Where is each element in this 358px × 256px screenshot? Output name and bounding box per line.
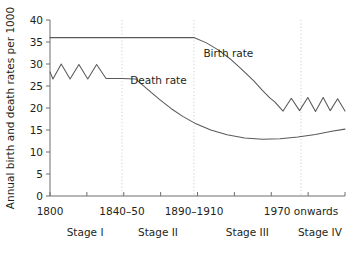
x-tick-label-2: 1840–50 — [99, 205, 144, 217]
y-axis-title: Annual birth and death rates per 1000 — [4, 7, 16, 209]
x-tick-label-1: 1800 — [37, 205, 64, 217]
stage-label-2: Stage II — [138, 226, 178, 238]
y-tick-label-35: 35 — [30, 36, 43, 48]
stage-label-1: Stage I — [67, 226, 104, 238]
stage-label-4: Stage IV — [298, 226, 343, 238]
y-axis-title-text: Annual birth and death rates per 1000 — [4, 7, 16, 209]
y-axis-ticks — [46, 20, 50, 196]
series-annotation-birth-rate: Birth rate — [203, 47, 253, 59]
y-tick-label-10: 10 — [30, 146, 43, 158]
x-tick-label-3: 1890–1910 — [165, 205, 224, 217]
y-tick-label-20: 20 — [30, 102, 43, 114]
y-tick-label-30: 30 — [30, 58, 43, 70]
y-tick-label-5: 5 — [36, 168, 43, 180]
y-tick-label-0: 0 — [36, 190, 43, 202]
stage-label-3: Stage III — [226, 226, 269, 238]
x-axis-tick-labels: 18001840–501890–19101970 onwards — [37, 205, 339, 217]
series-annotations: Birth rateDeath rate — [130, 47, 253, 86]
demographic-transition-chart: 0510152025303540 18001840–501890–1910197… — [0, 0, 358, 256]
y-tick-label-25: 25 — [30, 80, 43, 92]
y-axis-tick-labels: 0510152025303540 — [30, 14, 43, 202]
series-annotation-death-rate: Death rate — [130, 74, 186, 86]
y-tick-label-40: 40 — [30, 14, 43, 26]
chart-svg: 0510152025303540 18001840–501890–1910197… — [0, 0, 358, 256]
stage-labels: Stage IStage IIStage IIIStage IV — [67, 226, 343, 238]
x-tick-label-4: 1970 onwards — [264, 205, 338, 217]
y-tick-label-15: 15 — [30, 124, 43, 136]
